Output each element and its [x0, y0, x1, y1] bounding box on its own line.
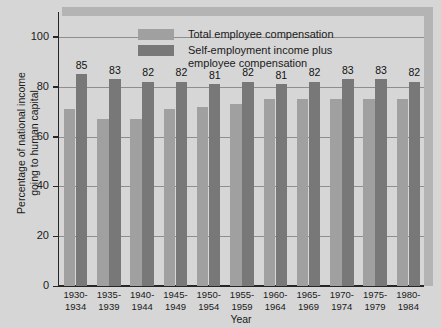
- bar: [330, 99, 342, 286]
- bar-group: 85: [64, 12, 88, 286]
- y-axis-tick-label: 40: [9, 180, 49, 191]
- bar: [276, 84, 288, 286]
- x-axis-tick-label: 1955- 1959: [225, 289, 259, 312]
- bar: [409, 82, 421, 286]
- bar: [297, 99, 309, 286]
- y-axis-tick-label: 80: [9, 81, 49, 92]
- y-axis-tick-label: 0: [9, 280, 49, 291]
- bar: [242, 82, 254, 286]
- bar-value-label: 83: [103, 65, 127, 76]
- bar: [375, 79, 387, 286]
- legend-swatch-icon-dark: [138, 45, 174, 56]
- x-axis-tick-label: 1980- 1984: [391, 289, 425, 312]
- bar: [142, 82, 154, 286]
- x-axis-tick-label: 1975- 1979: [358, 289, 392, 312]
- bar: [76, 74, 88, 286]
- y-axis-tick-label: 100: [9, 31, 49, 42]
- bar: [230, 104, 242, 286]
- legend-label: Self-employment income plus employee com…: [188, 44, 332, 70]
- bar: [309, 82, 321, 286]
- y-axis-tick-label: 60: [9, 131, 49, 142]
- y-axis-title: Percentage of national income going to h…: [15, 33, 41, 253]
- bar: [197, 107, 209, 286]
- x-axis-tick-label: 1965- 1969: [292, 289, 326, 312]
- bar: [176, 82, 188, 286]
- legend-swatch-icon-light: [138, 29, 174, 40]
- legend-item-self-employment-income: Self-employment income plus employee com…: [138, 44, 418, 70]
- bar-group: 83: [97, 12, 121, 286]
- x-axis-tick-label: 1970- 1974: [325, 289, 359, 312]
- legend-label: Total employee compensation: [188, 28, 334, 41]
- bar: [97, 119, 109, 286]
- bar: [342, 79, 354, 286]
- bar: [363, 99, 375, 286]
- x-axis-tick-label: 1935- 1939: [92, 289, 126, 312]
- x-axis-tick-label: 1945- 1949: [158, 289, 192, 312]
- bar: [397, 99, 409, 286]
- x-axis-tick-label: 1930- 1934: [59, 289, 93, 312]
- x-axis-title: Year: [58, 313, 424, 325]
- chart-figure: Percentage of national income going to h…: [0, 0, 441, 328]
- bar: [264, 99, 276, 286]
- legend-item-total-employee-compensation: Total employee compensation: [138, 28, 418, 41]
- x-axis-tick-label: 1950- 1954: [192, 289, 226, 312]
- chart-legend: Total employee compensation Self-employm…: [138, 28, 418, 73]
- x-axis-tick-labels: 1930- 19341935- 19391940- 19441945- 1949…: [58, 289, 424, 315]
- bar: [130, 119, 142, 286]
- bar: [209, 84, 221, 286]
- y-axis-tick-label: 20: [9, 230, 49, 241]
- bar: [164, 109, 176, 286]
- x-axis-tick-label: 1940- 1944: [125, 289, 159, 312]
- x-axis-tick-label: 1960- 1964: [258, 289, 292, 312]
- bar-value-label: 85: [70, 60, 94, 71]
- bar: [64, 109, 76, 286]
- figure-shadow-right: [424, 7, 433, 286]
- bar: [109, 79, 121, 286]
